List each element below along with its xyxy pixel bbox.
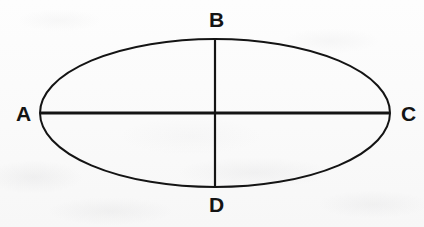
vertex-label-d: D xyxy=(209,194,224,215)
vertex-label-c: C xyxy=(401,103,416,124)
vertex-label-b: B xyxy=(209,9,224,30)
vertex-label-a: A xyxy=(16,103,31,124)
diagram-canvas: A B C D xyxy=(0,0,424,227)
